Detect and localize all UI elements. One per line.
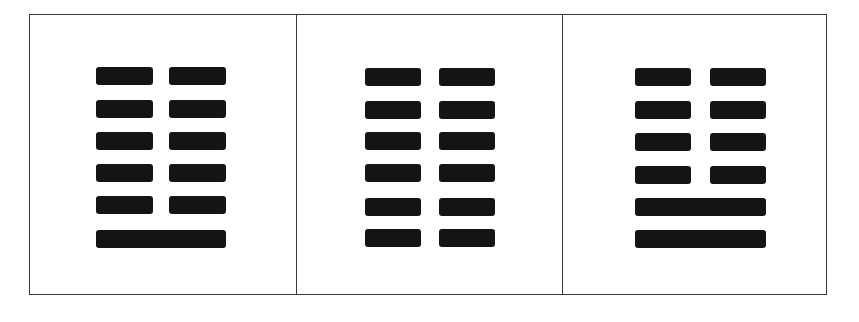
yin-broken-line-left bbox=[365, 164, 421, 182]
yin-broken-line-right bbox=[439, 229, 495, 247]
hexagram-panel-2 bbox=[296, 15, 562, 294]
yin-broken-line-left bbox=[96, 132, 153, 150]
yin-broken-line-right bbox=[710, 68, 766, 86]
yin-broken-line-right bbox=[169, 67, 226, 85]
hexagram-figure-frame bbox=[29, 14, 827, 295]
yin-broken-line-right bbox=[710, 133, 766, 151]
yin-broken-line-left bbox=[635, 101, 691, 119]
yin-broken-line-right bbox=[169, 164, 226, 182]
yin-broken-line-left bbox=[365, 132, 421, 150]
yin-broken-line-left bbox=[96, 164, 153, 182]
yin-broken-line-left bbox=[635, 68, 691, 86]
hexagram-panel-1 bbox=[30, 15, 296, 294]
yin-broken-line-left bbox=[365, 229, 421, 247]
yin-broken-line-left bbox=[96, 67, 153, 85]
yin-broken-line-right bbox=[710, 101, 766, 119]
yin-broken-line-left bbox=[96, 100, 153, 118]
hexagram-panel-3 bbox=[562, 15, 828, 294]
yin-broken-line-right bbox=[439, 132, 495, 150]
yin-broken-line-left bbox=[635, 133, 691, 151]
yang-solid-line bbox=[635, 198, 766, 216]
yin-broken-line-right bbox=[439, 68, 495, 86]
yin-broken-line-right bbox=[169, 196, 226, 214]
yang-solid-line bbox=[96, 230, 226, 248]
yin-broken-line-left bbox=[365, 68, 421, 86]
yin-broken-line-right bbox=[439, 164, 495, 182]
yin-broken-line-right bbox=[439, 198, 495, 216]
yin-broken-line-right bbox=[169, 132, 226, 150]
yang-solid-line bbox=[635, 230, 766, 248]
yin-broken-line-left bbox=[365, 198, 421, 216]
yin-broken-line-right bbox=[169, 100, 226, 118]
yin-broken-line-left bbox=[96, 196, 153, 214]
yin-broken-line-left bbox=[635, 166, 691, 184]
yin-broken-line-right bbox=[439, 101, 495, 119]
yin-broken-line-left bbox=[365, 101, 421, 119]
yin-broken-line-right bbox=[710, 166, 766, 184]
